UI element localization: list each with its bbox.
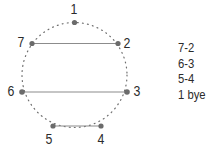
pairing-list: 7-2 6-3 5-4 1 bye [178, 41, 215, 103]
node-label-5: 5 [45, 132, 52, 146]
pairing-item: 7-2 [178, 41, 211, 57]
node-label-3: 3 [133, 84, 140, 98]
node-dot-1 [72, 20, 77, 25]
node-dot-4 [98, 123, 103, 128]
node-label-6: 6 [7, 84, 14, 98]
node-label-2: 2 [123, 36, 130, 50]
node-label-7: 7 [17, 35, 24, 49]
node-dot-5 [50, 123, 55, 128]
node-label-4: 4 [97, 132, 104, 146]
round-robin-diagram: 1 2 3 4 5 6 7 7-2 6-3 5-4 1 bye [0, 0, 215, 151]
pairing-item: 5-4 [178, 72, 211, 88]
schedule-circle [22, 23, 127, 128]
node-dot-2 [115, 41, 120, 46]
node-dot-3 [124, 89, 130, 95]
node-dot-7 [29, 41, 34, 46]
node-dot-6 [19, 89, 25, 95]
pairing-item: 1 bye [178, 88, 211, 104]
node-label-1: 1 [70, 2, 77, 16]
pairing-item: 6-3 [178, 57, 211, 73]
